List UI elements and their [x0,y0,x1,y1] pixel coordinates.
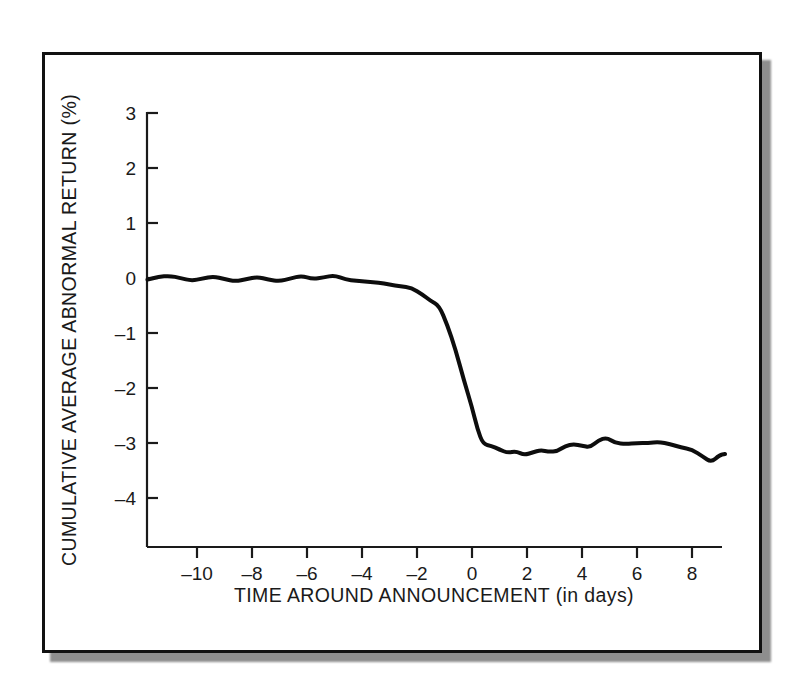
x-axis-ticks: –10–8–6–4–202468 [181,547,697,584]
y-tick-label: 2 [125,158,136,179]
x-axis-title: TIME AROUND ANNOUNCEMENT (in days) [234,584,634,606]
x-tick-label: 8 [687,563,698,584]
x-tick-label: –10 [181,563,213,584]
x-tick-label: –6 [296,563,317,584]
y-axis-ticks: 3210–1–2–3–4 [115,103,158,509]
y-tick-label: –3 [115,433,136,454]
x-tick-label: 2 [522,563,533,584]
y-tick-label: 0 [125,268,136,289]
data-line-series-0 [148,276,726,461]
y-tick-label: 3 [125,103,136,124]
x-tick-label: 0 [467,563,478,584]
y-axis-title: CUMULATIVE AVERAGE ABNORMAL RETURN (%) [58,94,80,566]
x-tick-label: –8 [241,563,262,584]
x-tick-label: 6 [632,563,643,584]
axes-spines [147,112,722,547]
x-tick-label: 4 [577,563,588,584]
x-tick-label: –2 [406,563,427,584]
y-tick-label: 1 [125,213,136,234]
x-tick-label: –4 [351,563,373,584]
figure-root: 3210–1–2–3–4 –10–8–6–4–202468 TIME AROUN… [0,0,799,695]
y-tick-label: –2 [115,378,136,399]
y-tick-label: –1 [115,323,136,344]
y-tick-label: –4 [115,488,137,509]
chart-svg: 3210–1–2–3–4 –10–8–6–4–202468 TIME AROUN… [0,0,799,695]
